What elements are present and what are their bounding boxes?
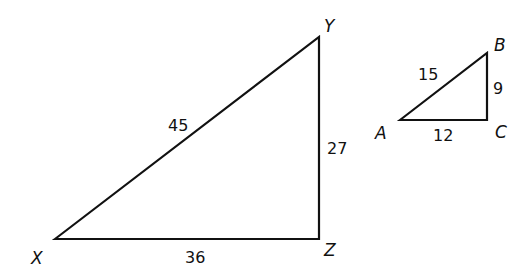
triangle-xyz	[55, 37, 319, 239]
vertex-label-y: Y	[324, 16, 336, 36]
vertex-label-x: X	[30, 248, 43, 268]
vertex-label-z: Z	[323, 240, 336, 260]
vertex-label-c: C	[495, 122, 507, 142]
side-label-bc: 9	[493, 79, 503, 98]
side-label-ac: 12	[433, 126, 453, 145]
triangle-abc	[400, 53, 487, 120]
side-label-ab: 15	[418, 65, 438, 84]
diagram-canvas: X Y Z 45 27 36 A B C 15 9 12	[0, 0, 525, 276]
vertex-label-a: A	[374, 123, 387, 143]
side-label-xz: 36	[185, 248, 205, 267]
vertex-label-b: B	[494, 35, 506, 55]
side-label-yz: 27	[327, 139, 347, 158]
side-label-xy: 45	[168, 116, 188, 135]
